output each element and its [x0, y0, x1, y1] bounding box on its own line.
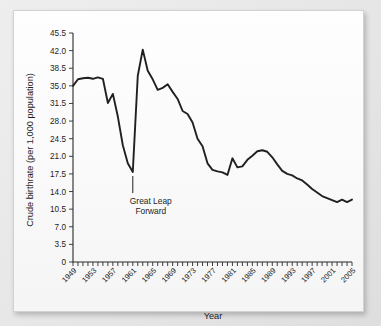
- y-axis-tick-label: 17.5: [50, 170, 66, 179]
- y-axis-tick-label: 3.5: [55, 240, 67, 249]
- x-axis-title: Year: [204, 311, 223, 321]
- x-axis-tick-label: 1989: [259, 266, 277, 284]
- x-axis-tick-label: 1957: [100, 266, 118, 284]
- y-axis-tick-label: 7.0: [55, 223, 67, 232]
- x-axis-ticks: [73, 262, 352, 266]
- x-axis-tick-label: 1953: [80, 266, 98, 284]
- y-axis-tick-label: 24.5: [50, 135, 66, 144]
- great-leap-forward-label-line2: Forward: [135, 206, 166, 216]
- y-axis-tick-label: 0: [61, 258, 66, 267]
- x-axis-tick-label: 1993: [279, 266, 297, 284]
- y-axis-tick-label: 21.0: [50, 152, 66, 161]
- y-axis-tick-label: 38.5: [50, 64, 66, 73]
- x-axis-tick-label: 1949: [60, 266, 78, 284]
- y-axis-tick-label: 10.5: [50, 205, 66, 214]
- y-axis-tick-label: 31.5: [50, 99, 66, 108]
- y-axis-ticks: [69, 33, 73, 262]
- y-axis-tick-label: 35.0: [50, 82, 66, 91]
- y-axis-tick-label: 28.0: [50, 117, 66, 126]
- x-axis-tick-labels: 1949195319571961196519691973197719811985…: [60, 266, 357, 284]
- x-axis-tick-label: 2001: [319, 266, 337, 284]
- x-axis-tick-label: 1965: [140, 266, 158, 284]
- y-axis-tick-label: 14.0: [50, 188, 66, 197]
- x-axis-tick-label: 1961: [120, 266, 138, 284]
- x-axis-tick-label: 1977: [200, 266, 218, 284]
- x-axis-tick-label: 1969: [160, 266, 178, 284]
- y-axis-tick-labels: 03.57.010.514.017.521.024.528.031.535.03…: [50, 29, 66, 267]
- x-axis-tick-label: 2005: [339, 266, 357, 284]
- line-chart-svg: 03.57.010.514.017.521.024.528.031.535.03…: [0, 0, 381, 326]
- chart-page: 03.57.010.514.017.521.024.528.031.535.03…: [0, 0, 381, 326]
- data-series-crude-birthrate: [73, 50, 352, 203]
- great-leap-forward-label-line1: Great Leap: [130, 196, 172, 206]
- x-axis-tick-label: 1985: [239, 266, 257, 284]
- chart-axes: [73, 33, 352, 262]
- x-axis-tick-label: 1973: [180, 266, 198, 284]
- y-axis-tick-label: 45.5: [50, 29, 66, 38]
- chart-figure: 03.57.010.514.017.521.024.528.031.535.03…: [0, 0, 381, 326]
- y-axis-title: Crude birthrate (per 1,000 population): [25, 73, 35, 227]
- x-axis-tick-label: 1997: [299, 266, 317, 284]
- x-axis-tick-label: 1981: [220, 266, 238, 284]
- y-axis-tick-label: 42.0: [50, 47, 66, 56]
